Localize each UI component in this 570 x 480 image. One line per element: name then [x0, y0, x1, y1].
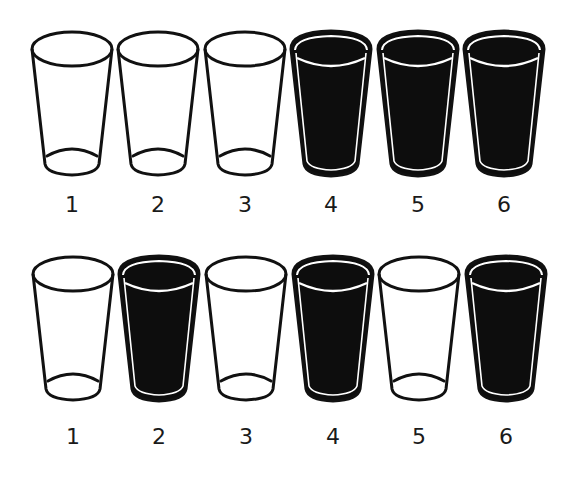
empty-glass-icon	[29, 28, 115, 178]
full-glass-icon	[461, 28, 547, 178]
full-glass-icon	[375, 28, 461, 178]
bottom-row-glass-4	[290, 253, 376, 403]
bottom-row-label-5: 5	[399, 425, 439, 449]
empty-glass-icon	[202, 28, 288, 178]
empty-glass-icon	[30, 253, 116, 403]
top-row-glass-1	[29, 28, 115, 178]
bottom-row-label-1: 1	[53, 425, 93, 449]
top-row-label-4: 4	[311, 193, 351, 217]
bottom-row-glass-1	[30, 253, 116, 403]
empty-glass-icon	[203, 253, 289, 403]
top-row-glass-3	[202, 28, 288, 178]
top-row-label-2: 2	[138, 193, 178, 217]
bottom-row-glass-2	[116, 253, 202, 403]
empty-glass-icon	[376, 253, 462, 403]
bottom-row-label-2: 2	[139, 425, 179, 449]
top-row-glass-6	[461, 28, 547, 178]
bottom-row-glass-6	[463, 253, 549, 403]
bottom-row-label-3: 3	[226, 425, 266, 449]
bottom-row-label-4: 4	[313, 425, 353, 449]
bottom-row-label-6: 6	[486, 425, 526, 449]
top-row-glass-2	[115, 28, 201, 178]
top-row-label-1: 1	[52, 193, 92, 217]
glasses-diagram: 1 2 3 4 5	[0, 0, 570, 480]
empty-glass-icon	[115, 28, 201, 178]
full-glass-icon	[288, 28, 374, 178]
full-glass-icon	[463, 253, 549, 403]
top-row-label-6: 6	[484, 193, 524, 217]
full-glass-icon	[116, 253, 202, 403]
top-row-label-3: 3	[225, 193, 265, 217]
top-row-glass-5	[375, 28, 461, 178]
top-row-glass-4	[288, 28, 374, 178]
full-glass-icon	[290, 253, 376, 403]
top-row-label-5: 5	[398, 193, 438, 217]
bottom-row-glass-5	[376, 253, 462, 403]
bottom-row-glass-3	[203, 253, 289, 403]
